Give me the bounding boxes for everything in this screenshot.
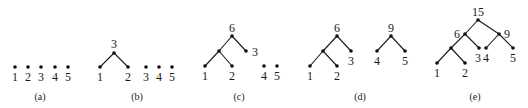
diagram-svg: 12345(a)312345(b)631245(c)6312945(d)1569… (0, 0, 528, 108)
panel-caption: (a) (34, 91, 45, 103)
node-label: 1 (434, 66, 440, 80)
tree-node (449, 46, 453, 50)
panel-e: 156934512(e) (434, 5, 516, 103)
tree-node (66, 65, 70, 69)
node-label: 2 (334, 69, 340, 83)
tree-node (126, 65, 130, 69)
tree-node (375, 49, 379, 53)
tree-edge (114, 53, 128, 67)
tree-node (308, 64, 312, 68)
node-label: 2 (462, 66, 468, 80)
tree-node (335, 64, 339, 68)
panel-caption: (e) (469, 91, 480, 103)
tree-edge (310, 51, 323, 66)
tree-node (203, 64, 207, 68)
panel-caption: (b) (131, 91, 143, 103)
node-label: 5 (274, 69, 280, 83)
node-label: 6 (454, 27, 460, 41)
node-label: 5 (65, 70, 71, 84)
tree-node (435, 61, 439, 65)
tree-node (484, 46, 488, 50)
panel-d: 6312945(d) (307, 21, 408, 103)
node-label: 6 (334, 21, 340, 35)
tree-node (217, 49, 221, 53)
tree-edge (451, 48, 465, 63)
node-label: 3 (38, 70, 44, 84)
node-label: 3 (111, 37, 117, 51)
tree-edge (323, 51, 337, 66)
tree-edge (323, 36, 337, 51)
tree-node (463, 32, 467, 36)
tree-node (157, 65, 161, 69)
node-label: 9 (388, 21, 394, 35)
tree-node (497, 32, 501, 36)
huffman-diagram: 12345(a)312345(b)631245(c)6312945(d)1569… (0, 0, 528, 108)
tree-edge (465, 20, 478, 34)
tree-node (26, 65, 30, 69)
tree-node (275, 64, 279, 68)
tree-edge (377, 36, 391, 51)
tree-node (39, 65, 43, 69)
node-label: 4 (52, 70, 58, 84)
tree-edge (337, 36, 351, 51)
node-label: 4 (261, 69, 267, 83)
tree-node (403, 49, 407, 53)
tree-edge (205, 51, 219, 66)
tree-node (244, 49, 248, 53)
node-label: 1 (307, 69, 313, 83)
node-label: 1 (12, 70, 18, 84)
node-label: 4 (156, 70, 162, 84)
tree-node (144, 65, 148, 69)
node-label: 5 (169, 70, 175, 84)
tree-node (170, 65, 174, 69)
tree-edge (478, 20, 499, 34)
panel-b: 312345(b) (97, 37, 175, 103)
node-label: 2 (25, 70, 31, 84)
node-label: 3 (143, 70, 149, 84)
tree-node (511, 46, 515, 50)
node-label: 1 (202, 69, 208, 83)
tree-edge (437, 48, 451, 63)
tree-edge (391, 36, 405, 51)
tree-node (321, 49, 325, 53)
node-label: 2 (229, 69, 235, 83)
tree-edge (219, 36, 232, 51)
node-label: 3 (252, 45, 258, 59)
tree-node (230, 64, 234, 68)
panel-c: 631245(c) (202, 21, 280, 103)
tree-node (349, 49, 353, 53)
panel-caption: (d) (354, 91, 366, 103)
tree-edge (100, 53, 114, 67)
tree-node (262, 64, 266, 68)
node-label: 15 (472, 5, 484, 19)
tree-node (463, 61, 467, 65)
panel-caption: (c) (233, 91, 244, 103)
node-label: 9 (504, 27, 510, 41)
node-label: 4 (374, 54, 380, 68)
tree-node (112, 51, 116, 55)
node-label: 6 (229, 21, 235, 35)
panel-a: 12345(a) (12, 65, 71, 103)
node-label: 5 (510, 51, 516, 65)
tree-node (477, 46, 481, 50)
node-label: 3 (475, 51, 481, 65)
tree-node (13, 65, 17, 69)
node-label: 1 (97, 70, 103, 84)
node-label: 2 (125, 70, 131, 84)
tree-edge (232, 36, 246, 51)
node-label: 4 (483, 51, 489, 65)
tree-edge (219, 51, 232, 66)
node-label: 5 (402, 54, 408, 68)
tree-node (53, 65, 57, 69)
tree-edge (486, 34, 499, 48)
tree-edge (465, 34, 479, 48)
tree-node (98, 65, 102, 69)
node-label: 3 (348, 54, 354, 68)
